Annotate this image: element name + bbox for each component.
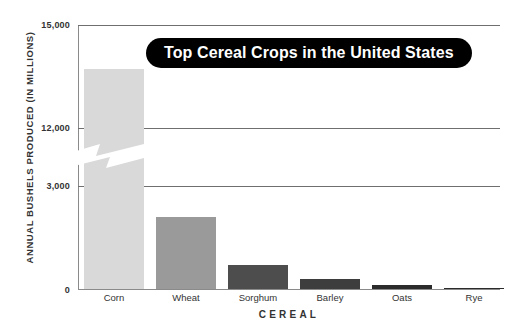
- bar-rye[interactable]: [444, 288, 504, 289]
- x-label-barley: Barley: [300, 292, 360, 303]
- bar-barley[interactable]: [300, 279, 360, 289]
- y-tick-label-15000: 15,000: [0, 20, 70, 30]
- x-axis-labels: Corn Wheat Sorghum Barley Oats Rye: [78, 292, 500, 308]
- x-label-oats: Oats: [372, 292, 432, 303]
- bar-wheat[interactable]: [156, 217, 216, 289]
- y-tick-label-0: 0: [0, 285, 70, 295]
- bar-sorghum[interactable]: [228, 265, 288, 289]
- bar-oats[interactable]: [372, 285, 432, 289]
- x-label-rye: Rye: [444, 292, 504, 303]
- x-label-corn: Corn: [84, 292, 144, 303]
- chart-title-text: Top Cereal Crops in the United States: [164, 44, 454, 62]
- y-axis-title: ANNUAL BUSHELS PRODUCED (IN MILLIONS): [24, 23, 35, 273]
- x-axis-title: CEREAL: [78, 309, 500, 320]
- bar-corn[interactable]: [84, 69, 144, 289]
- bar-chart: ANNUAL BUSHELS PRODUCED (IN MILLIONS) 15…: [0, 0, 515, 326]
- x-label-sorghum: Sorghum: [228, 292, 288, 303]
- chart-title-banner: Top Cereal Crops in the United States: [146, 38, 472, 68]
- y-tick-label-3000: 3,000: [0, 181, 70, 191]
- x-label-wheat: Wheat: [156, 292, 216, 303]
- cropped-header-text: [0, 0, 515, 5]
- y-tick-label-12000: 12,000: [0, 123, 70, 133]
